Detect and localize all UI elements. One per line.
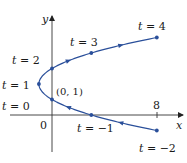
direction-arrow-icon bbox=[65, 58, 72, 64]
t-label: t = −2 bbox=[139, 142, 176, 155]
direction-arrows bbox=[65, 42, 124, 125]
parametric-plot: y x 0 8 (0, 1) t = −2t = −1t = 0t = 1t =… bbox=[0, 0, 187, 163]
point-annotation: (0, 1) bbox=[56, 86, 83, 97]
t-labels: t = −2t = −1t = 0t = 1t = 2t = 3t = 4 bbox=[2, 20, 176, 155]
t-label: t = 3 bbox=[70, 36, 98, 49]
x-tick-label-8: 8 bbox=[153, 99, 160, 112]
direction-arrow-icon bbox=[65, 104, 72, 110]
t-label: t = 4 bbox=[138, 20, 166, 33]
curve-point bbox=[89, 51, 93, 55]
origin-label: 0 bbox=[40, 119, 47, 132]
curve-point bbox=[37, 82, 41, 86]
y-axis-label: y bbox=[41, 13, 49, 26]
curve-point bbox=[155, 36, 159, 40]
t-label: t = 0 bbox=[2, 100, 30, 113]
parametric-curve bbox=[39, 38, 157, 131]
x-axis-label: x bbox=[176, 119, 183, 132]
curve-point bbox=[50, 67, 54, 71]
t-label: t = 2 bbox=[12, 54, 40, 67]
t-label: t = −1 bbox=[77, 122, 114, 135]
curve-point bbox=[50, 98, 54, 102]
curve-point bbox=[89, 113, 93, 117]
curve-points bbox=[37, 36, 159, 133]
curve-point bbox=[155, 129, 159, 133]
t-label: t = 1 bbox=[2, 79, 30, 92]
